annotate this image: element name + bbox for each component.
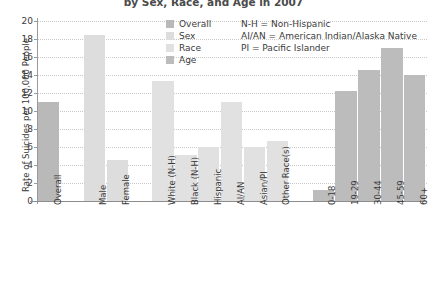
bar (84, 35, 105, 202)
legend-item: SexAI/AN = American Indian/Alaska Native (166, 30, 416, 42)
x-tick-label: Male (98, 185, 108, 205)
x-tick-label: 0-18 (327, 186, 337, 205)
x-tick-label: Female (121, 174, 131, 205)
y-tick-label: 6 (3, 143, 33, 152)
y-tick-label: 4 (3, 161, 33, 170)
x-tick-label: AI/AN (236, 182, 246, 205)
legend-label: Sex (179, 31, 241, 41)
y-tick-label: 2 (3, 179, 33, 188)
legend-item: Age (166, 54, 416, 66)
y-tick-label: 18 (3, 35, 33, 44)
x-tick-label: White (N-H) (167, 155, 177, 205)
x-tick-label: 45-59 (396, 180, 406, 205)
y-tick-label: 14 (3, 71, 33, 80)
y-tick-label: 20 (3, 17, 33, 26)
legend-label: Race (179, 43, 241, 53)
y-tick-mark (34, 39, 38, 40)
legend-abbreviation-note: N-H = Non-Hispanic (241, 19, 331, 29)
y-tick-mark (34, 57, 38, 58)
x-tick-label: 19-29 (350, 180, 360, 205)
legend-swatch (166, 56, 174, 64)
bar (404, 75, 425, 201)
legend-abbreviation-note: PI = Pacific Islander (241, 43, 330, 53)
legend-abbreviation-note: AI/AN = American Indian/Alaska Native (241, 31, 417, 41)
y-tick-label: 0 (3, 197, 33, 206)
x-tick-label: 30-44 (373, 180, 383, 205)
y-tick-label: 8 (3, 125, 33, 134)
x-tick-label: Overall (53, 175, 63, 205)
legend-swatch (166, 32, 174, 40)
legend-swatch (166, 20, 174, 28)
legend-swatch (166, 44, 174, 52)
y-tick-label: 12 (3, 89, 33, 98)
x-tick-label: Asian/PI (259, 171, 269, 205)
y-tick-mark (34, 75, 38, 76)
x-tick-label: Black (N-H) (190, 157, 200, 205)
legend-item: RacePI = Pacific Islander (166, 42, 416, 54)
y-tick-mark (34, 21, 38, 22)
legend-label: Age (179, 55, 241, 65)
y-tick-label: 16 (3, 53, 33, 62)
chart-legend: OverallN-H = Non-HispanicSexAI/AN = Amer… (166, 18, 416, 66)
legend-label: Overall (179, 19, 241, 29)
chart-title: by Sex, Race, and Age in 2007 (0, 0, 427, 9)
x-tick-label: Hispanic (213, 169, 223, 205)
bar (381, 48, 402, 201)
legend-item: OverallN-H = Non-Hispanic (166, 18, 416, 30)
x-axis-line (30, 201, 427, 202)
x-tick-label: Other Race(s) (281, 146, 291, 205)
x-tick-label: 60+ (419, 187, 429, 205)
y-tick-mark (34, 93, 38, 94)
y-tick-label: 10 (3, 107, 33, 116)
